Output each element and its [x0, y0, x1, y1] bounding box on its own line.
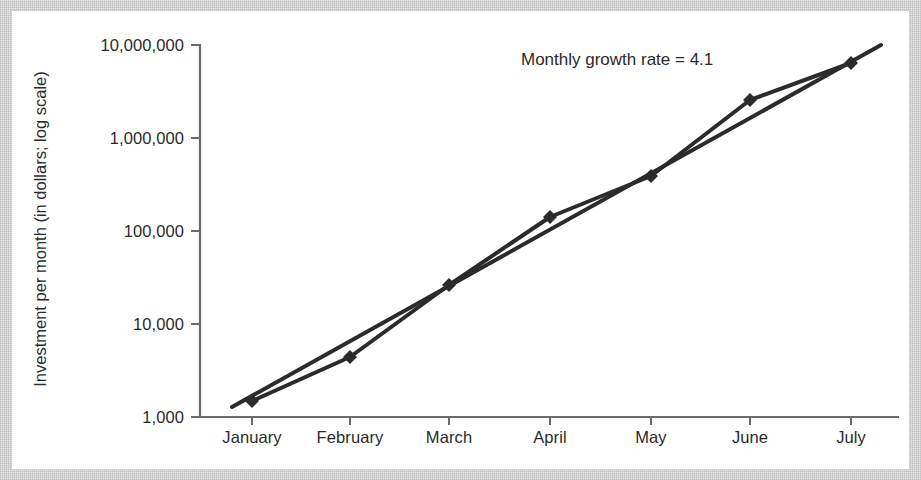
y-tick-label-1000: 1,000 — [4, 408, 184, 427]
y-tick-label-1000000: 1,000,000 — [4, 129, 184, 148]
y-tick-label-100000: 100,000 — [4, 222, 184, 241]
data-point-january — [245, 394, 259, 408]
x-axis-ticks — [252, 417, 851, 425]
figure-frame: Investment per month (in dollars; log sc… — [0, 0, 921, 480]
y-tick-label-10000: 10,000 — [4, 315, 184, 334]
y-tick-label-10000000: 10,000,000 — [4, 36, 184, 55]
trend-line — [232, 45, 881, 407]
x-tick-label-july: July — [781, 428, 921, 447]
y-axis-ticks — [191, 45, 200, 417]
growth-rate-annotation: Monthly growth rate = 4.1 — [521, 50, 713, 70]
